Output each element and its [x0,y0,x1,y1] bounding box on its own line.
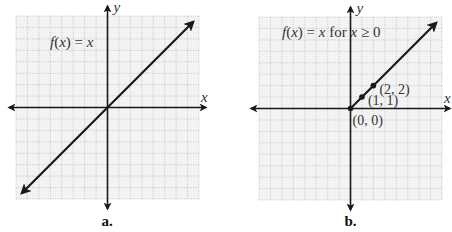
data-point [348,106,354,112]
point-label: (2, 2) [379,82,410,98]
function-domain: for [325,24,350,40]
panel-a: x y f(x) = x a. [9,0,208,229]
panel-label: a. [102,213,114,229]
data-point [359,94,365,100]
function-rhs: x [86,34,94,50]
function-label: f(x) = x [50,34,94,51]
y-axis-label: y [355,0,364,16]
y-axis-label: y [112,0,121,15]
paren-close: ) = [66,34,87,51]
panel-label: b. [345,213,357,229]
x-axis-label: x [200,89,208,105]
chart-figure: x y f(x) = x a. (0, 0)(1, 1)(2, 2) x y f… [0,0,452,232]
function-label: f(x) = x for x ≥ 0 [282,24,380,41]
data-point [371,83,377,89]
panel-b: (0, 0)(1, 1)(2, 2) x y f(x) = x for x ≥ … [251,0,451,229]
paren-close: ) = [298,24,319,41]
domain-condition: ≥ 0 [357,24,380,40]
point-label: (0, 0) [353,113,384,129]
x-axis-label: x [443,90,451,106]
